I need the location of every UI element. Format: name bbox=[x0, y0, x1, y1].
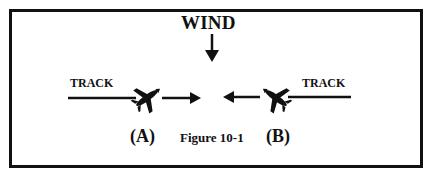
wind-label: WIND bbox=[181, 13, 236, 32]
track-label-left: TRACK bbox=[70, 77, 113, 89]
position-label-a: (A) bbox=[130, 127, 155, 145]
figure-caption: Figure 10-1 bbox=[180, 131, 244, 144]
wind-arrow-icon bbox=[205, 34, 219, 62]
heading-arrow-right-icon bbox=[162, 92, 201, 104]
position-label-b: (B) bbox=[266, 127, 290, 145]
track-label-right: TRACK bbox=[302, 77, 345, 89]
heading-arrow-left-icon bbox=[223, 91, 260, 103]
